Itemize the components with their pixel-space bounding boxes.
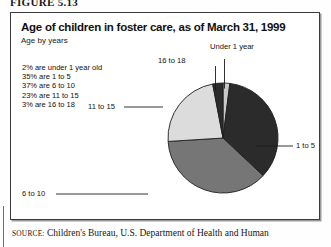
pie-slice-group (168, 83, 278, 193)
figure-number: FIGURE 5.13 (10, 0, 78, 8)
stats-line-11-15: 23% are 11 to 15 (22, 91, 102, 100)
pie-label-6-10: 6 to 10 (22, 189, 45, 198)
stats-line-under-1: 2% are under 1 year old (22, 63, 102, 72)
pie-slice-1-to-5 (223, 83, 278, 175)
source-prefix: SOURCE: (12, 229, 45, 238)
page-canvas: FIGURE 5.13 Age of children in foster ca… (0, 0, 331, 247)
pie-label-under-1: Under 1 year (210, 42, 254, 51)
pie-slice-under-1-year (223, 83, 230, 138)
source-text: Children's Bureau, U.S. Department of He… (47, 228, 269, 238)
figure-frame: Age of children in foster care, as of Ma… (10, 12, 320, 220)
stats-line-16-18: 3% are 16 to 18 (22, 100, 102, 109)
chart-title: Age of children in foster care, as of Ma… (21, 21, 285, 33)
pie-label-1-5: 1 to 5 (296, 141, 315, 150)
source-line: SOURCE: Children's Bureau, U.S. Departme… (12, 228, 269, 238)
pie-slice-11-to-15 (168, 84, 223, 141)
chart-subtitle: Age by years (21, 36, 68, 45)
stats-list: 2% are under 1 year old 35% are 1 to 5 3… (22, 63, 102, 109)
stats-line-1-5: 35% are 1 to 5 (22, 72, 102, 81)
pie-slice-16-to-18 (213, 83, 223, 138)
page-gutter-rule (3, 206, 4, 247)
pie-slice-6-to-10 (168, 138, 263, 193)
stats-line-6-10: 37% are 6 to 10 (22, 81, 102, 90)
pie-label-16-18: 16 to 18 (158, 56, 185, 65)
